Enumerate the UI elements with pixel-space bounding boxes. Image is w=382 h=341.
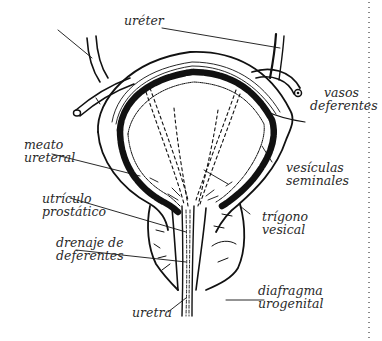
anatomy-diagram: uréter vasos deferentes meato ureteral v…	[0, 0, 382, 341]
label-vasos-deferentes: vasos deferentes	[310, 86, 378, 112]
label-diafragma-urogenital: diafragma urogenital	[258, 284, 323, 310]
label-meato-ureteral: meato ureteral	[24, 138, 75, 164]
margin-dotted-rule	[368, 0, 370, 341]
trigone-hatching	[150, 178, 232, 200]
label-drenaje-deferentes: drenaje de deferentes	[56, 236, 124, 262]
right-ureter-tube	[270, 34, 284, 80]
label-utriculo-prostatico: utrículo prostático	[42, 192, 106, 218]
leader-lines	[52, 28, 280, 312]
interior-dashed-lines	[146, 88, 240, 206]
label-uretra: uretra	[132, 306, 172, 319]
right-vas-deferens	[252, 69, 305, 122]
label-ureter: uréter	[124, 14, 164, 27]
label-trigono-vesical: trígono vesical	[262, 210, 308, 236]
left-ureter-tube	[87, 36, 108, 82]
label-vesiculas-seminales: vesículas seminales	[286, 161, 349, 187]
